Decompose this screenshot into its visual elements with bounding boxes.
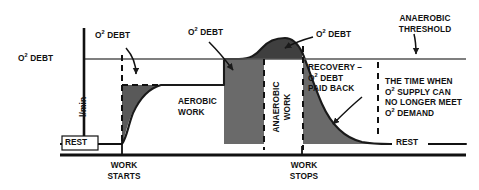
- o2-debt-peak-suffix: DEBT: [326, 29, 351, 39]
- rest-right-label: REST: [396, 137, 418, 147]
- shaded-region-pre-anaerobic: [224, 59, 264, 144]
- work-starts-label: WORK STARTS: [94, 160, 154, 181]
- anaerobic-threshold-label: ANAEROBIC THRESHOLD: [377, 13, 473, 34]
- explanation-line3: NO LONGER MEET: [385, 97, 462, 107]
- explanation-line1: THE TIME WHEN: [385, 76, 453, 86]
- work-stops-label: WORK STOPS: [274, 160, 334, 181]
- o2-debt-deficit-label: O2 DEBT: [95, 30, 130, 41]
- leader-o2-debt-pre-anaerobic: [209, 42, 233, 70]
- leader-recovery: [333, 97, 362, 124]
- shaded-region-oxygen-deficit: [122, 85, 160, 144]
- aerobic-work-label: AEROBIC WORK: [178, 96, 217, 117]
- o2-debt-peak-label: O2 DEBT: [316, 29, 351, 40]
- rest-left-label: REST: [65, 137, 87, 147]
- recovery-label-line1: RECOVERY –: [308, 62, 362, 72]
- o2-debt-axis-label-suffix: DEBT: [28, 53, 53, 63]
- leader-o2-debt-deficit: [126, 48, 136, 74]
- o2-debt-deficit-suffix: DEBT: [105, 30, 130, 40]
- recovery-label: RECOVERY –O2 DEBTPAID BACK: [308, 62, 362, 94]
- explanation-label: THE TIME WHENO2 SUPPLY CANNO LONGER MEET…: [385, 76, 462, 118]
- explanation-line2-post: SUPPLY CAN: [395, 87, 451, 97]
- leader-anaerobic-threshold: [414, 34, 416, 54]
- o2-debt-axis-label: O2 DEBT: [18, 53, 53, 64]
- explanation-line4-post: DEMAND: [395, 108, 434, 118]
- recovery-label-line3: PAID BACK: [308, 83, 354, 93]
- oxygen-debt-diagram: O2 DEBT l/min O2 DEBT O2 DEBT O2 DEBT AN…: [0, 0, 479, 190]
- anaerobic-work-label: ANAEROBIC WORK: [271, 74, 292, 140]
- o2-debt-pre-anaerobic-label: O2 DEBT: [188, 27, 223, 38]
- recovery-label-line2-post: DEBT: [318, 73, 343, 83]
- o2-debt-pre-anaerobic-suffix: DEBT: [198, 27, 223, 37]
- y-axis-unit-label: l/min: [78, 97, 89, 117]
